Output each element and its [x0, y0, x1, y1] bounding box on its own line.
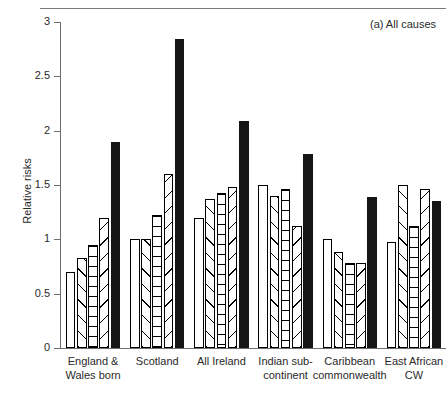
- y-axis-tick-label: 0.5: [0, 287, 50, 299]
- y-axis-tick: [54, 131, 60, 132]
- bar: [141, 239, 151, 348]
- bar-group: [189, 22, 253, 348]
- bar-group: [318, 22, 382, 348]
- bar: [130, 239, 140, 348]
- bar: [205, 199, 215, 348]
- y-axis-tick-label: 1.5: [0, 178, 50, 190]
- bar: [387, 242, 397, 348]
- bar: [66, 272, 76, 348]
- x-axis-line: [60, 348, 446, 349]
- bar: [217, 193, 227, 348]
- bar: [228, 187, 238, 348]
- bar: [88, 245, 98, 348]
- x-axis-group-label: East AfricanCW: [373, 354, 448, 382]
- bar: [194, 218, 204, 348]
- bar: [334, 252, 344, 348]
- y-axis-tick-label: 1: [0, 232, 50, 244]
- x-axis-label-line: CW: [373, 368, 448, 382]
- plot-area: [61, 22, 446, 348]
- bar: [77, 258, 87, 348]
- y-axis-tick-label: 0: [0, 341, 50, 353]
- top-rule-divider: [40, 8, 446, 9]
- y-axis-tick: [54, 294, 60, 295]
- bar: [323, 239, 333, 348]
- bar: [152, 215, 162, 348]
- y-axis-tick-label: 2.5: [0, 69, 50, 81]
- bar: [420, 189, 430, 348]
- y-axis-tick: [54, 22, 60, 23]
- bar: [111, 142, 121, 348]
- bar: [164, 174, 174, 348]
- y-axis-tick: [54, 348, 60, 349]
- y-axis-tick: [54, 185, 60, 186]
- bar: [270, 196, 280, 348]
- y-axis-tick-label: 3: [0, 15, 50, 27]
- bar: [303, 154, 313, 349]
- bar: [175, 39, 185, 348]
- y-axis-tick: [54, 239, 60, 240]
- bar: [345, 263, 355, 348]
- bar: [258, 185, 268, 348]
- bar-group: [125, 22, 189, 348]
- bar: [281, 189, 291, 348]
- bar: [356, 263, 366, 348]
- y-axis-tick-label: 2: [0, 124, 50, 136]
- bar: [398, 185, 408, 348]
- bar: [292, 226, 302, 348]
- bar: [239, 121, 249, 348]
- bar-group: [382, 22, 446, 348]
- bar-group: [254, 22, 318, 348]
- bar: [409, 226, 419, 348]
- bar: [99, 218, 109, 348]
- x-axis-label-line: Wales born: [52, 368, 134, 382]
- bar-group: [61, 22, 125, 348]
- y-axis-tick: [54, 76, 60, 77]
- bar: [367, 197, 377, 348]
- bar: [432, 201, 442, 348]
- x-axis-label-line: East African: [373, 354, 448, 368]
- chart-figure: (a) All causes Relative risks 00.511.522…: [0, 0, 448, 401]
